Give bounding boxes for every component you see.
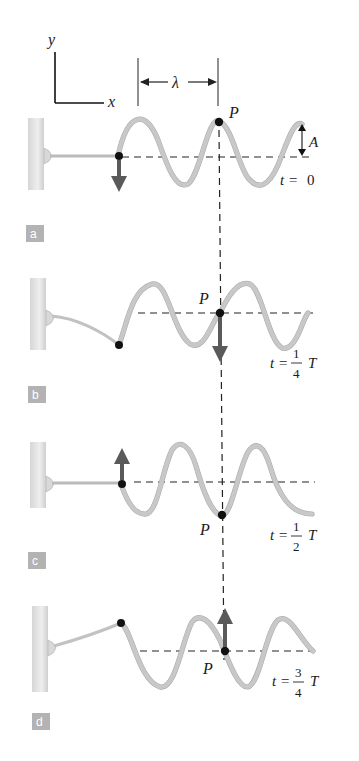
- wall: [32, 606, 48, 692]
- wavelength-label: λ: [171, 74, 179, 91]
- time-denominator: 4: [295, 685, 302, 700]
- arrow-down-icon: [111, 176, 127, 192]
- time-numerator: 1: [293, 519, 300, 534]
- panel-d: P t = 3 4 T d: [32, 606, 320, 730]
- time-label: t =: [270, 355, 288, 371]
- time-suffix: T: [310, 673, 320, 689]
- time-value: 0: [307, 172, 315, 188]
- time-numerator: 3: [295, 665, 302, 680]
- end-point: [115, 341, 123, 349]
- point-p: [221, 647, 229, 655]
- point-p-label: P: [198, 290, 209, 307]
- time-label: t =: [280, 172, 298, 188]
- p-tracking-line: [219, 130, 224, 660]
- amplitude-label: A: [308, 134, 319, 150]
- time-denominator: 4: [293, 366, 300, 381]
- wall: [28, 118, 44, 190]
- arrow-left-icon: [140, 78, 149, 86]
- wave-diagram: y x λ P A t = 0 a: [0, 0, 359, 761]
- end-point: [118, 480, 126, 488]
- wave-string: [118, 119, 302, 185]
- time-suffix: T: [308, 527, 318, 543]
- end-point: [117, 619, 125, 627]
- time-label: t =: [272, 673, 290, 689]
- point-p: [218, 511, 226, 519]
- panel-badge-label: a: [30, 227, 37, 241]
- panel-a: P A t = 0 a: [26, 104, 319, 242]
- time-denominator: 2: [293, 539, 300, 554]
- wave-string: [121, 444, 312, 516]
- panel-b: P t = 1 4 T b: [28, 278, 318, 403]
- coordinate-axes: y x: [46, 31, 115, 110]
- point-p: [216, 309, 224, 317]
- time-suffix: T: [308, 355, 318, 371]
- arrow-up-icon: [217, 608, 233, 624]
- point-p: [215, 118, 223, 126]
- point-p-label: P: [228, 104, 239, 121]
- arrow-down-icon: [212, 346, 228, 362]
- string-segment: [54, 623, 121, 646]
- y-axis-label: y: [46, 31, 56, 49]
- panel-badge-label: d: [36, 715, 43, 729]
- arrow-down-icon: [298, 149, 306, 156]
- string-segment: [52, 316, 119, 345]
- point-p-label: P: [202, 660, 213, 677]
- panel-badge-label: c: [32, 554, 38, 568]
- time-label: t =: [270, 527, 288, 543]
- point-p-label: P: [199, 521, 210, 538]
- wavelength-marker: λ: [138, 58, 218, 106]
- arrow-right-icon: [208, 78, 217, 86]
- panel-badge-label: b: [32, 388, 39, 402]
- wave-string: [119, 283, 308, 348]
- panel-c: P t = 1 2 T c: [28, 442, 318, 569]
- wall: [30, 442, 46, 508]
- time-numerator: 1: [293, 346, 300, 361]
- end-point: [115, 152, 123, 160]
- x-axis-label: x: [107, 93, 115, 110]
- arrow-up-icon: [114, 448, 130, 464]
- wall: [30, 278, 46, 350]
